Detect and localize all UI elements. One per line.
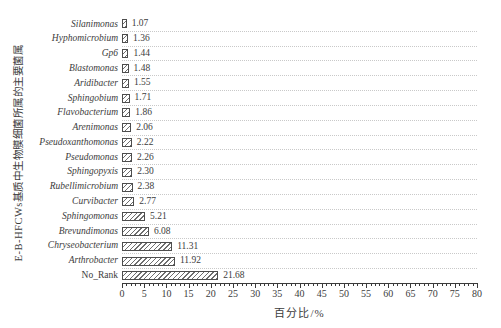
category-label: Pseudomonas xyxy=(0,150,118,165)
plot-area: 1.071.361.441.481.551.711.862.062.222.26… xyxy=(122,17,477,283)
x-tick-label: 80 xyxy=(472,289,482,299)
bar-row: 2.30 xyxy=(122,165,477,180)
x-minor-tick xyxy=(295,284,296,286)
value-label: 2.30 xyxy=(137,167,154,177)
bar xyxy=(122,183,133,192)
x-minor-tick xyxy=(202,284,203,286)
value-label: 1.44 xyxy=(133,49,150,59)
x-minor-tick xyxy=(242,284,243,286)
bar-row: 1.44 xyxy=(122,47,477,62)
value-label: 5.21 xyxy=(150,212,167,222)
category-label: Chryseobacterium xyxy=(0,239,118,254)
x-minor-tick xyxy=(362,284,363,286)
x-minor-tick xyxy=(237,284,238,286)
bar-row: 2.38 xyxy=(122,180,477,195)
category-label: Curvibacter xyxy=(0,194,118,209)
category-label: Aridibacter xyxy=(0,76,118,91)
x-minor-tick xyxy=(428,284,429,286)
bar-row: 1.55 xyxy=(122,76,477,91)
value-label: 1.86 xyxy=(135,108,152,118)
x-minor-tick xyxy=(313,284,314,286)
x-minor-tick xyxy=(450,284,451,286)
bar-row: 1.07 xyxy=(122,17,477,32)
bar-rows: 1.071.361.441.481.551.711.862.062.222.26… xyxy=(122,17,477,283)
bar-row: 5.21 xyxy=(122,210,477,225)
x-minor-tick xyxy=(286,284,287,286)
x-minor-tick xyxy=(339,284,340,286)
bar xyxy=(122,79,129,88)
x-tick-label: 20 xyxy=(206,289,216,299)
bar xyxy=(122,108,130,117)
x-tick-label: 40 xyxy=(295,289,305,299)
x-minor-tick xyxy=(437,284,438,286)
x-minor-tick xyxy=(348,284,349,286)
x-minor-tick xyxy=(171,284,172,286)
category-label: Gp6 xyxy=(0,47,118,62)
bar xyxy=(122,153,132,162)
bar xyxy=(122,64,129,73)
bar-row: 11.31 xyxy=(122,239,477,254)
x-tick-label: 0 xyxy=(120,289,125,299)
category-label: Arenimonas xyxy=(0,120,118,135)
category-label: Sphingobium xyxy=(0,91,118,106)
x-minor-tick xyxy=(459,284,460,286)
value-label: 11.92 xyxy=(180,256,201,266)
value-label: 2.06 xyxy=(136,123,153,133)
value-label: 2.26 xyxy=(137,153,154,163)
bar-row: 1.48 xyxy=(122,61,477,76)
x-tick-label: 55 xyxy=(361,289,371,299)
category-label: Hyphomicrobium xyxy=(0,32,118,47)
bar-row: 1.36 xyxy=(122,32,477,47)
x-minor-tick xyxy=(335,284,336,286)
x-minor-tick xyxy=(402,284,403,286)
category-label: Sphingomonas xyxy=(0,209,118,224)
x-tick-label: 30 xyxy=(250,289,260,299)
x-minor-tick xyxy=(197,284,198,286)
bar xyxy=(122,212,145,221)
x-minor-tick xyxy=(180,284,181,286)
x-minor-tick xyxy=(357,284,358,286)
x-minor-tick xyxy=(397,284,398,286)
category-label: Rubellimicrobium xyxy=(0,180,118,195)
x-minor-tick xyxy=(220,284,221,286)
x-minor-tick xyxy=(291,284,292,286)
x-minor-tick xyxy=(184,284,185,286)
x-tick-label: 35 xyxy=(272,289,282,299)
value-label: 1.07 xyxy=(132,19,149,29)
bar-chart: E-B-HFCWs基质中生物膜细菌所属的主要菌属 SilanimonasHyph… xyxy=(0,0,501,328)
bar xyxy=(122,94,130,103)
category-labels: SilanimonasHyphomicrobiumGp6BlastomonasA… xyxy=(0,17,118,283)
x-minor-tick xyxy=(260,284,261,286)
bar xyxy=(122,197,134,206)
value-label: 2.38 xyxy=(138,182,155,192)
bar xyxy=(122,138,132,147)
x-minor-tick xyxy=(246,284,247,286)
x-minor-tick xyxy=(224,284,225,286)
x-minor-tick xyxy=(304,284,305,286)
x-minor-tick xyxy=(384,284,385,286)
x-minor-tick xyxy=(135,284,136,286)
x-minor-tick xyxy=(158,284,159,286)
value-label: 1.48 xyxy=(134,64,151,74)
x-minor-tick xyxy=(446,284,447,286)
x-tick-label: 65 xyxy=(405,289,415,299)
bar xyxy=(122,49,128,58)
x-minor-tick xyxy=(206,284,207,286)
x-minor-tick xyxy=(331,284,332,286)
x-minor-tick xyxy=(264,284,265,286)
bar xyxy=(122,227,149,236)
bar xyxy=(122,242,172,251)
bar-row: 2.22 xyxy=(122,136,477,151)
x-minor-tick xyxy=(371,284,372,286)
value-label: 1.71 xyxy=(135,93,152,103)
x-tick-label: 70 xyxy=(428,289,438,299)
x-tick-label: 5 xyxy=(142,289,147,299)
category-label: No_Rank xyxy=(0,268,118,283)
x-tick-label: 45 xyxy=(317,289,327,299)
x-minor-tick xyxy=(393,284,394,286)
x-minor-tick xyxy=(468,284,469,286)
bar-row: 1.71 xyxy=(122,91,477,106)
category-label: Silanimonas xyxy=(0,17,118,32)
x-minor-tick xyxy=(153,284,154,286)
x-minor-tick xyxy=(424,284,425,286)
